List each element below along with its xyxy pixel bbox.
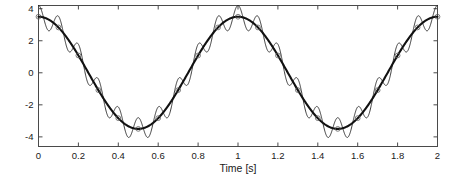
x-tick-label: 1.4 [311, 150, 324, 161]
plot-svg: 00.20.40.60.811.21.41.61.82 420-2-4 Time… [0, 0, 461, 180]
y-tick-label: -2 [25, 99, 33, 110]
x-axis-ticks [39, 6, 438, 147]
y-tick-label: 4 [28, 3, 33, 14]
y-axis-tick-labels: 420-2-4 [25, 3, 33, 142]
carrier-series-markers [36, 14, 440, 131]
carrier-series-line [39, 17, 438, 129]
x-tick-label: 1 [235, 150, 240, 161]
y-tick-label: -4 [25, 131, 33, 142]
y-axis-ticks [39, 9, 438, 137]
x-tick-label: 1.8 [391, 150, 404, 161]
plot-frame [39, 6, 438, 147]
x-axis-title: Time [s] [220, 162, 257, 174]
y-tick-label: 2 [28, 35, 33, 46]
x-tick-label: 0.8 [191, 150, 204, 161]
x-tick-label: 1.2 [271, 150, 284, 161]
ripple-series-line [39, 6, 438, 138]
x-tick-label: 0.4 [112, 150, 125, 161]
x-tick-label: 0.2 [72, 150, 85, 161]
x-axis-tick-labels: 00.20.40.60.811.21.41.61.82 [36, 150, 440, 161]
figure-canvas: 00.20.40.60.811.21.41.61.82 420-2-4 Time… [0, 0, 461, 180]
x-tick-label: 0.6 [152, 150, 165, 161]
x-tick-label: 1.6 [351, 150, 364, 161]
x-tick-label: 0 [36, 150, 41, 161]
x-tick-label: 2 [435, 150, 440, 161]
y-tick-label: 0 [28, 67, 33, 78]
